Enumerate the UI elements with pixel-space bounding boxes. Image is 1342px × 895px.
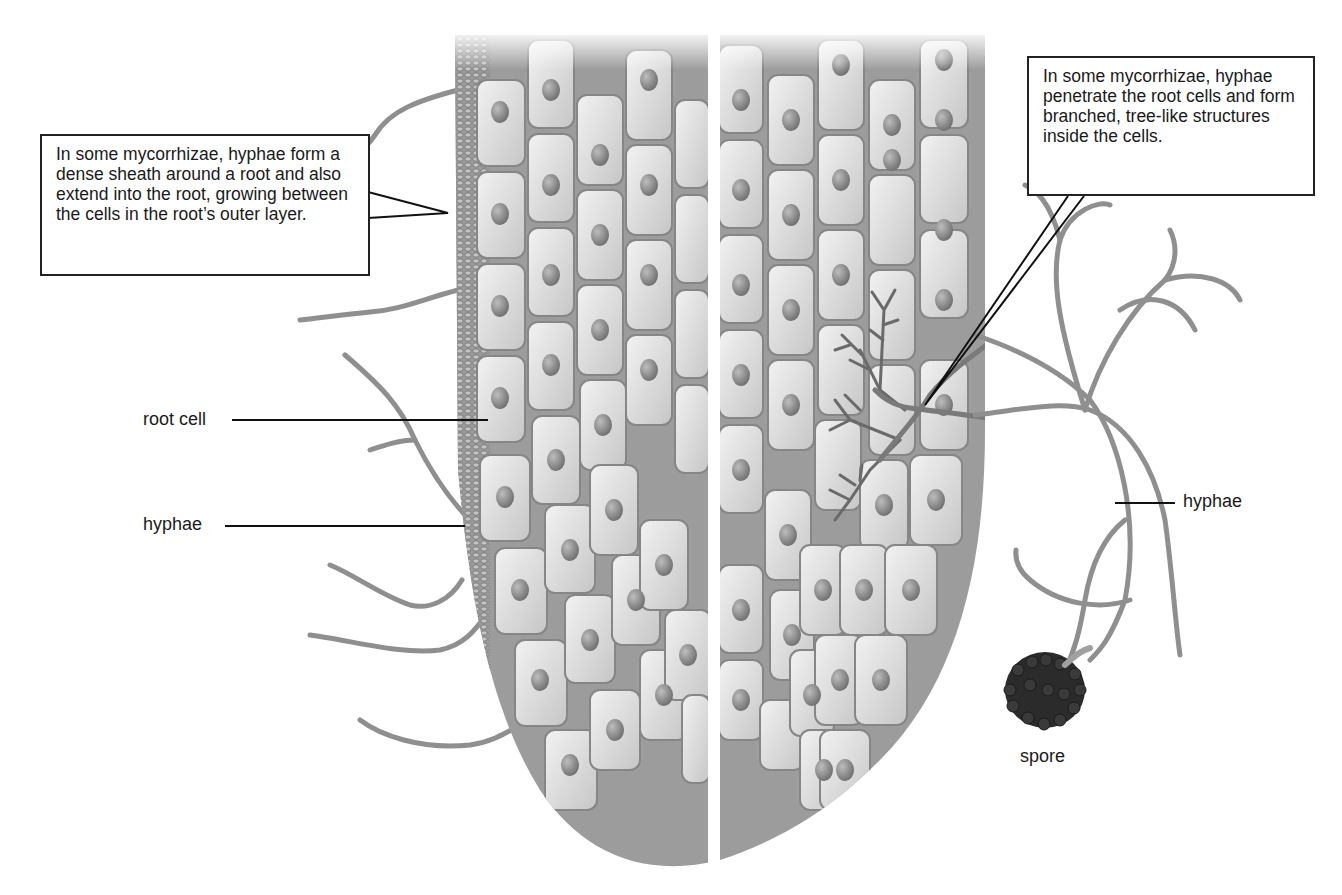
callout-arbuscule-text: In some mycorrhizae, hyphae penetrate th…	[1043, 66, 1295, 146]
spore	[1004, 648, 1090, 730]
label-root-cell: root cell	[143, 409, 206, 430]
mycorrhizae-diagram: In some mycorrhizae, hyphae form a dense…	[0, 0, 1342, 895]
label-hyphae-right: hyphae	[1183, 491, 1242, 512]
callout-sheath: In some mycorrhizae, hyphae form a dense…	[40, 134, 370, 276]
callout-sheath-text: In some mycorrhizae, hyphae form a dense…	[56, 144, 348, 224]
right-hyphae	[975, 185, 1240, 670]
cutaway-gap	[708, 0, 720, 895]
label-hyphae-left: hyphae	[143, 514, 202, 535]
label-spore: spore	[1020, 746, 1065, 767]
left-callout-pointer	[368, 192, 448, 218]
callout-arbuscule: In some mycorrhizae, hyphae penetrate th…	[1027, 56, 1315, 196]
